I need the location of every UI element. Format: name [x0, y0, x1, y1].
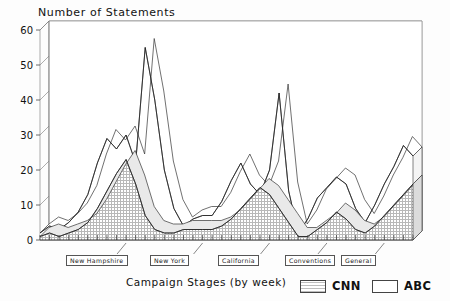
x-axis-title: Campaign Stages (by week): [126, 276, 286, 288]
y-axis-labels: 6050403020100: [20, 25, 33, 246]
stage-label-new-york: New York: [150, 255, 189, 266]
svg-text:60: 60: [20, 25, 33, 36]
legend-swatch-abc: [372, 280, 398, 293]
legend-swatch-cnn: [300, 280, 326, 293]
svg-text:20: 20: [20, 165, 33, 176]
stage-label-california: California: [218, 255, 259, 266]
annotation-leader-lines: [117, 243, 384, 254]
svg-text:50: 50: [20, 60, 33, 71]
svg-text:40: 40: [20, 95, 33, 106]
stage-label-new-hampshire: New Hampshire: [66, 255, 128, 266]
stage-label-conventions: Conventions: [285, 255, 335, 266]
svg-text:30: 30: [20, 130, 33, 141]
legend-label-abc: ABC: [404, 279, 431, 293]
legend-item-cnn: CNN: [300, 279, 361, 293]
svg-text:0: 0: [27, 235, 33, 246]
stage-label-general: General: [341, 255, 376, 266]
chart-figure: Number of Statements 6050403020100: [0, 0, 450, 301]
legend-item-abc: ABC: [372, 279, 431, 293]
svg-text:10: 10: [20, 200, 33, 211]
legend-label-cnn: CNN: [332, 279, 361, 293]
